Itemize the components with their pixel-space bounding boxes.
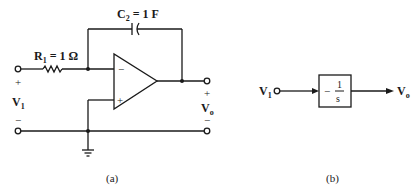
output-terminal-top (204, 78, 210, 84)
junction-dot (86, 129, 90, 133)
arrow-right-icon (312, 88, 319, 94)
block-output-label: Vo (397, 84, 410, 100)
output-plus-sign: + (204, 87, 210, 99)
input-terminal-top (15, 66, 21, 72)
arrow-right-icon (386, 88, 394, 94)
input-voltage-label: V1 (12, 95, 25, 111)
capacitor-label: C2 = 1 F (117, 7, 159, 23)
junction-dot (86, 67, 90, 71)
output-voltage-label: Vo (201, 101, 214, 117)
junction-dot (180, 79, 184, 83)
block-sign: − (324, 85, 330, 97)
block-input-terminal (274, 88, 280, 94)
block-denominator: s (336, 93, 340, 104)
output-terminal-bottom (204, 128, 210, 134)
block-input-label: V1 (259, 84, 272, 100)
resistor-icon (43, 66, 62, 72)
opamp-minus-sign: − (118, 63, 124, 75)
resistor-label: R1 = 1 Ω (34, 49, 79, 65)
input-plus-sign: + (15, 76, 21, 88)
diagram-canvas: C2 = 1 F R1 = 1 Ω − + + − V1 + − Vo (a) … (0, 0, 420, 192)
caption-a: (a) (106, 172, 119, 185)
caption-b: (b) (326, 172, 339, 185)
opamp-plus-sign: + (117, 94, 123, 106)
input-terminal-bottom (15, 128, 21, 134)
input-minus-sign: − (15, 114, 21, 126)
block-numerator: 1 (337, 79, 342, 90)
